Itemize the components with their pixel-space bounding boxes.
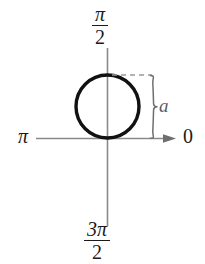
axis-label-pi: π bbox=[18, 126, 28, 146]
polar-circle-diagram: π 2 3π 2 π 0 a bbox=[0, 0, 205, 264]
fraction-numerator: π bbox=[92, 4, 108, 26]
radius-brace bbox=[151, 76, 158, 139]
horizontal-axis-arrowhead bbox=[163, 134, 176, 143]
fraction-numerator: 3π bbox=[84, 219, 110, 241]
fraction-three-pi-over-two: 3π 2 bbox=[84, 219, 110, 262]
fraction-pi-over-two: π 2 bbox=[92, 4, 108, 47]
brace-label-a: a bbox=[159, 96, 169, 115]
axis-label-pi-over-two: π 2 bbox=[92, 4, 108, 47]
axis-label-zero: 0 bbox=[183, 126, 193, 146]
fraction-denominator: 2 bbox=[84, 241, 110, 262]
axis-label-three-pi-over-two: 3π 2 bbox=[84, 219, 110, 262]
fraction-denominator: 2 bbox=[92, 26, 108, 47]
